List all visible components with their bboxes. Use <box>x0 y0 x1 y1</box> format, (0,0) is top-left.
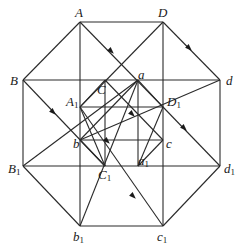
vertex-label-c: c <box>166 137 172 150</box>
vertex-letter: B <box>8 161 16 176</box>
vertex-label-c1: c1 <box>157 230 167 245</box>
edge-a-b <box>80 80 138 140</box>
hypercube-diagram <box>0 0 238 247</box>
edge-b1-B1 <box>23 166 80 226</box>
vertex-label-d: d <box>226 74 233 87</box>
arrowhead-icon <box>129 192 137 200</box>
vertex-subscript: 1 <box>80 235 85 245</box>
edge-a-D1 <box>138 80 163 107</box>
vertex-letter: B <box>10 73 18 88</box>
vertex-subscript: 1 <box>163 235 168 245</box>
vertex-label-D1: D1 <box>167 95 181 110</box>
vertex-letter: c <box>166 136 172 151</box>
vertex-label-b1: b1 <box>73 230 84 245</box>
vertex-label-B1: B1 <box>8 162 20 177</box>
vertex-label-C: C <box>97 83 106 96</box>
vertex-letter: A <box>66 94 74 109</box>
vertex-letter: d <box>226 73 233 88</box>
vertex-letter: A <box>75 5 83 20</box>
edge-D-d <box>163 22 220 80</box>
vertex-subscript: 1 <box>16 167 21 177</box>
vertex-letter: D <box>167 94 176 109</box>
vertex-subscript: 1 <box>145 159 150 169</box>
vertex-label-D: D <box>158 6 167 19</box>
vertex-label-b: b <box>73 137 80 150</box>
vertex-subscript: 1 <box>74 100 79 110</box>
vertex-letter: a <box>138 67 145 82</box>
vertex-label-A: A <box>75 6 83 19</box>
vertex-letter: D <box>158 5 167 20</box>
edge-d1-c1 <box>163 166 220 226</box>
vertex-subscript: 1 <box>231 167 236 177</box>
edge-lines <box>23 22 220 226</box>
edge-B-A <box>23 22 80 80</box>
vertex-letter: C <box>98 167 107 182</box>
vertex-label-d1: d1 <box>224 162 235 177</box>
edge-b-C1 <box>80 140 105 166</box>
vertex-label-a: a <box>138 68 145 81</box>
vertex-label-a1: a1 <box>138 154 149 169</box>
vertex-label-B: B <box>10 74 18 87</box>
vertex-subscript: 1 <box>107 173 112 183</box>
vertex-letter: b <box>73 136 80 151</box>
vertex-label-A1: A1 <box>66 95 78 110</box>
vertex-letter: C <box>97 82 106 97</box>
vertex-label-C1: C1 <box>98 168 111 183</box>
vertex-subscript: 1 <box>176 100 181 110</box>
